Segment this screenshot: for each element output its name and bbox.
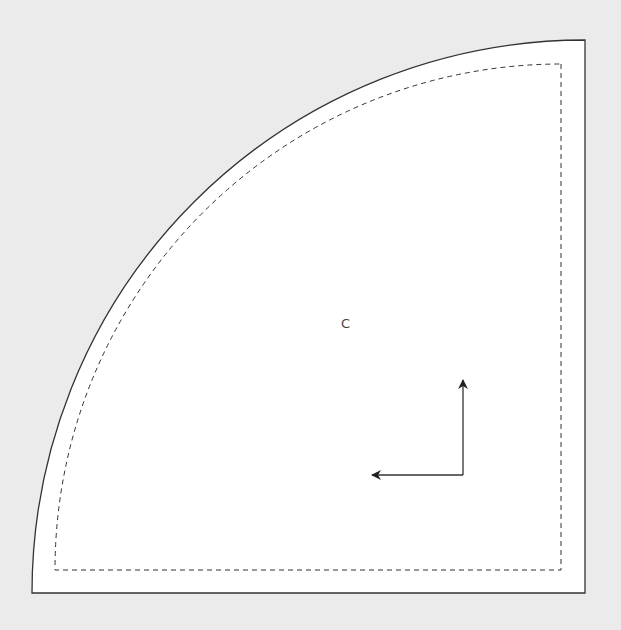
piece-label: C: [341, 316, 350, 331]
pattern-canvas: C: [0, 0, 621, 630]
cut-line: [32, 40, 585, 593]
pattern-drawing: [0, 0, 621, 630]
